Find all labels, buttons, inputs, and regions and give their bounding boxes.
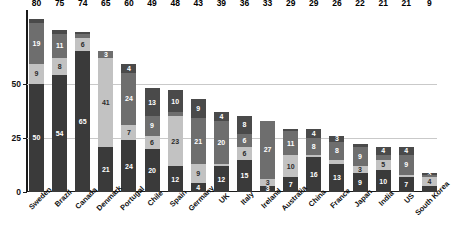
bar-segment[interactable]: 8 bbox=[329, 142, 344, 159]
bar-segment-value: 11 bbox=[56, 42, 63, 49]
x-axis-category-label: US bbox=[403, 191, 417, 205]
bar-segment[interactable]: 9 bbox=[29, 64, 44, 84]
bar-segment-value: 50 bbox=[33, 134, 41, 141]
bar-group[interactable]: 21794 bbox=[399, 10, 414, 192]
bar-segment[interactable]: 41 bbox=[98, 58, 113, 147]
bar-segment[interactable]: 6 bbox=[75, 38, 90, 51]
bar-segment[interactable]: 13 bbox=[329, 164, 344, 192]
bar-group[interactable]: 211054 bbox=[376, 10, 391, 192]
bar-segment-value: 10 bbox=[379, 178, 387, 185]
bar-group[interactable]: 60247244 bbox=[121, 10, 136, 192]
bar-segment[interactable]: 8 bbox=[237, 116, 252, 133]
bar-segment[interactable] bbox=[52, 30, 67, 34]
bar-segment-value: 6 bbox=[243, 150, 247, 157]
bar-segment[interactable]: 16 bbox=[306, 157, 321, 192]
bar-segment[interactable]: 24 bbox=[121, 140, 136, 192]
bar-segment[interactable]: 7 bbox=[121, 125, 136, 140]
bar-segment[interactable]: 10 bbox=[283, 155, 298, 177]
bar-group[interactable]: 3615668 bbox=[237, 10, 252, 192]
bar-segment[interactable]: 4 bbox=[214, 112, 229, 121]
bar-segment[interactable]: 19 bbox=[29, 23, 44, 64]
bar-segment[interactable]: 3 bbox=[98, 51, 113, 58]
bar-segment[interactable]: 6 bbox=[145, 136, 160, 149]
bar-segment[interactable]: 3 bbox=[422, 173, 437, 175]
bar-stack: 656 bbox=[75, 32, 90, 192]
bar-segment[interactable] bbox=[399, 175, 414, 177]
bar-group[interactable]: 7554811 bbox=[52, 10, 67, 192]
bar-segment[interactable]: 9 bbox=[191, 164, 206, 184]
bar-group[interactable]: 333327 bbox=[260, 10, 275, 192]
bar-segment[interactable] bbox=[75, 34, 90, 38]
bar-segment[interactable]: 5 bbox=[376, 160, 391, 171]
bar-segment[interactable]: 65 bbox=[75, 51, 90, 192]
bar-segment-value: 8 bbox=[312, 143, 316, 150]
bar-segment[interactable] bbox=[214, 164, 229, 166]
x-axis-label-cell: Chile bbox=[145, 194, 160, 235]
bar-segment[interactable]: 21 bbox=[98, 147, 113, 193]
bar-segment[interactable]: 4 bbox=[422, 177, 437, 186]
bar-group[interactable]: 3912204 bbox=[214, 10, 229, 192]
bar-segment[interactable]: 4 bbox=[376, 147, 391, 156]
bar-segment-value: 9 bbox=[150, 122, 154, 129]
x-axis-label-cell: US bbox=[399, 194, 414, 235]
bar-segment-value: 8 bbox=[243, 121, 247, 128]
bar-segment[interactable] bbox=[329, 160, 344, 164]
bar-total-label: 75 bbox=[55, 0, 64, 8]
bar-segment[interactable]: 21 bbox=[191, 118, 206, 164]
bar-segment[interactable]: 54 bbox=[52, 75, 67, 192]
bar-group[interactable]: 74656 bbox=[75, 10, 90, 192]
bar-segment[interactable] bbox=[376, 155, 391, 159]
bar-segment[interactable]: 8 bbox=[52, 58, 67, 75]
bar-segment[interactable]: 11 bbox=[52, 34, 67, 58]
bar-segment-value: 12 bbox=[171, 176, 179, 183]
bar-segment[interactable]: 11 bbox=[283, 131, 298, 155]
bar-segment[interactable]: 15 bbox=[237, 160, 252, 193]
bar-total-label: 74 bbox=[78, 0, 87, 8]
bar-segment[interactable]: 7 bbox=[399, 177, 414, 192]
bar-segment[interactable]: 4 bbox=[306, 129, 321, 138]
bar-segment[interactable]: 6 bbox=[237, 147, 252, 160]
bar-segment[interactable] bbox=[422, 175, 437, 177]
bar-segment-value: 3 bbox=[104, 51, 108, 58]
bar-segment[interactable]: 24 bbox=[121, 73, 136, 125]
bar-group[interactable]: 49206913 bbox=[145, 10, 160, 192]
bar-segment-value: 5 bbox=[381, 161, 385, 168]
bar-segment[interactable]: 3 bbox=[260, 179, 275, 186]
bar-segment[interactable] bbox=[283, 129, 298, 131]
bar-group[interactable]: 261383 bbox=[329, 10, 344, 192]
bar-segment[interactable] bbox=[75, 32, 90, 34]
bar-group[interactable]: 8050919 bbox=[29, 10, 44, 192]
bar-segment[interactable]: 3 bbox=[329, 136, 344, 143]
bar-segment[interactable] bbox=[306, 155, 321, 157]
bar-segment[interactable]: 9 bbox=[191, 99, 206, 119]
bar-group[interactable]: 2971011 bbox=[283, 10, 298, 192]
bar-group[interactable]: 291684 bbox=[306, 10, 321, 192]
bar-segment[interactable] bbox=[168, 112, 183, 116]
bar-segment[interactable]: 10 bbox=[168, 90, 183, 112]
bar-segment[interactable]: 6 bbox=[237, 134, 252, 147]
bar-segment[interactable]: 12 bbox=[214, 166, 229, 192]
bar-segment[interactable]: 50 bbox=[29, 84, 44, 192]
bar-segment[interactable]: 20 bbox=[145, 149, 160, 192]
bar-segment[interactable] bbox=[353, 144, 368, 146]
bar-group[interactable]: 48122310 bbox=[168, 10, 183, 192]
bar-group[interactable]: 22939 bbox=[353, 10, 368, 192]
bar-segment[interactable]: 9 bbox=[145, 116, 160, 136]
bar-total-label: 21 bbox=[402, 0, 411, 8]
bar-group[interactable]: 4349219 bbox=[191, 10, 206, 192]
bar-segment[interactable]: 8 bbox=[306, 138, 321, 155]
bar-group[interactable]: 6521413 bbox=[98, 10, 113, 192]
bar-segment[interactable]: 3 bbox=[353, 166, 368, 173]
bar-segment[interactable]: 23 bbox=[168, 116, 183, 166]
bar-segment[interactable]: 13 bbox=[145, 88, 160, 116]
bar-segment[interactable]: 27 bbox=[260, 121, 275, 180]
bar-group[interactable]: 943 bbox=[422, 10, 437, 192]
bar-segment[interactable]: 9 bbox=[353, 147, 368, 167]
bar-segment-value: 8 bbox=[58, 63, 62, 70]
bar-segment[interactable]: 4 bbox=[121, 64, 136, 73]
bar-segment[interactable]: 9 bbox=[399, 155, 414, 175]
bar-segment[interactable] bbox=[29, 19, 44, 23]
bar-segment[interactable]: 20 bbox=[214, 121, 229, 164]
bar-total-label: 29 bbox=[286, 0, 295, 8]
bar-segment[interactable]: 4 bbox=[399, 147, 414, 156]
